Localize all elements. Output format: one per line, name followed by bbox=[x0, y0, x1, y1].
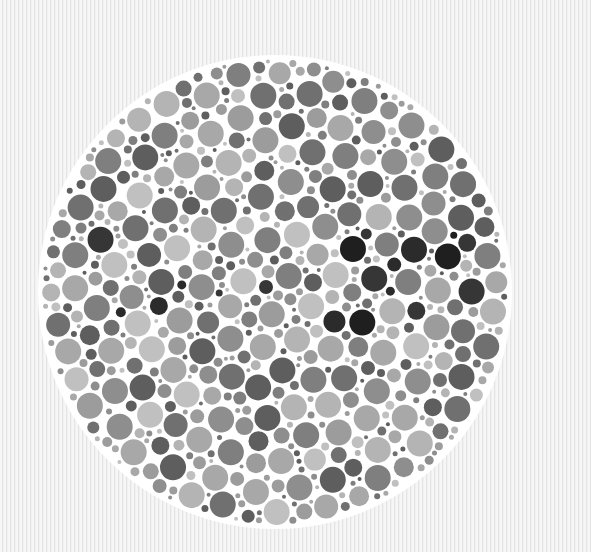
dot-pattern-canvas bbox=[0, 0, 591, 552]
ishihara-plate bbox=[0, 0, 591, 552]
